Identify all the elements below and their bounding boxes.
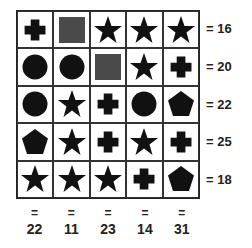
row-sum: = 22 — [206, 97, 232, 112]
cross-icon — [166, 52, 196, 82]
circle-icon — [57, 52, 87, 82]
equals-sign: = — [126, 206, 163, 220]
column-sum-value: 11 — [53, 220, 90, 238]
row-sum: = 25 — [206, 134, 232, 149]
grid-cell — [163, 123, 199, 160]
grid-cell — [17, 48, 53, 85]
cross-icon — [129, 164, 159, 194]
grid-cell — [90, 86, 126, 123]
grid-cell — [163, 48, 199, 85]
grid-cell — [17, 123, 53, 160]
pentagon-icon — [20, 127, 50, 157]
star-icon — [57, 89, 87, 119]
column-sum-value: 31 — [163, 220, 200, 238]
circle-icon — [20, 52, 50, 82]
cross-icon — [20, 15, 50, 45]
star-icon — [129, 52, 159, 82]
grid-cell — [126, 11, 162, 48]
star-icon — [93, 164, 123, 194]
grid-cell — [53, 161, 89, 198]
grid-cell — [126, 161, 162, 198]
cross-icon — [93, 127, 123, 157]
row-sum: = 20 — [206, 59, 232, 74]
grid-cell — [53, 11, 89, 48]
equals-sign: = — [53, 206, 90, 220]
grid-cell — [163, 86, 199, 123]
puzzle-grid — [16, 10, 200, 199]
grid-cell — [126, 86, 162, 123]
grid-cell — [126, 48, 162, 85]
circle-icon — [129, 89, 159, 119]
grid-cell — [163, 11, 199, 48]
cross-icon — [166, 127, 196, 157]
grid-cell — [90, 161, 126, 198]
column-sum: =11 — [53, 206, 90, 238]
pentagon-icon — [166, 89, 196, 119]
equals-sign: = — [90, 206, 127, 220]
grid-cell — [90, 11, 126, 48]
square-icon — [93, 52, 123, 82]
grid-cell — [53, 86, 89, 123]
star-icon — [129, 15, 159, 45]
star-icon — [57, 164, 87, 194]
pentagon-icon — [166, 164, 196, 194]
star-icon — [93, 15, 123, 45]
column-sum: =14 — [126, 206, 163, 238]
column-sum: =31 — [163, 206, 200, 238]
grid-cell — [53, 123, 89, 160]
star-icon — [57, 127, 87, 157]
column-sum-value: 23 — [90, 220, 127, 238]
column-sum-value: 22 — [16, 220, 53, 238]
grid-cell — [17, 11, 53, 48]
grid-cell — [90, 123, 126, 160]
column-sum: =23 — [90, 206, 127, 238]
equals-sign: = — [16, 206, 53, 220]
circle-icon — [20, 89, 50, 119]
column-sum: =22 — [16, 206, 53, 238]
grid-cell — [53, 48, 89, 85]
star-icon — [20, 164, 50, 194]
grid-cell — [90, 48, 126, 85]
star-icon — [129, 127, 159, 157]
star-icon — [166, 15, 196, 45]
grid-cell — [17, 86, 53, 123]
equals-sign: = — [163, 206, 200, 220]
row-sum: = 16 — [206, 21, 232, 36]
row-sum: = 18 — [206, 172, 232, 187]
grid-cell — [17, 161, 53, 198]
grid-cell — [126, 123, 162, 160]
grid-cell — [163, 161, 199, 198]
square-icon — [57, 15, 87, 45]
cross-icon — [93, 89, 123, 119]
column-sum-value: 14 — [126, 220, 163, 238]
